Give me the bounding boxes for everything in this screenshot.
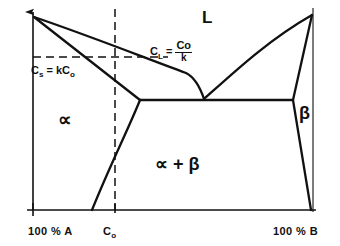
beta-region-label: β: [299, 104, 310, 122]
liquid-region-label: L: [202, 9, 212, 26]
alpha-beta-region-label: ∝ + β: [155, 155, 200, 173]
solvus-alpha-line: [92, 100, 140, 210]
cs-rest-subscript: o: [70, 70, 75, 79]
c0-subscript: o: [111, 231, 116, 240]
axis-label-100-percent-b: 100 % B: [273, 226, 318, 237]
cl-numerator: Co: [175, 40, 192, 53]
cl-equals: =: [166, 45, 172, 57]
cs-rest: = kC: [46, 64, 70, 76]
cs-subscript: s: [39, 70, 43, 79]
solidus-left-line: [34, 17, 140, 100]
phase-diagram-figure: L ∝ ∝ + β β CL = Co k Cs = kCo 100 % A C…: [0, 0, 340, 246]
solidus-right-line: [293, 15, 312, 100]
liquidus-composition-equation: CL = Co k: [150, 41, 192, 64]
axis-label-100-percent-a: 100 % A: [28, 226, 73, 237]
cs-symbol: C: [31, 64, 39, 76]
cl-symbol: C: [150, 45, 158, 57]
cl-denominator: k: [175, 53, 192, 64]
cl-subscript: L: [158, 52, 163, 61]
solidus-composition-equation: Cs = kCo: [31, 65, 75, 79]
alpha-region-label: ∝: [58, 110, 72, 129]
phase-diagram-canvas: [0, 0, 340, 246]
axis-label-c0: Co: [103, 226, 117, 240]
cl-fraction: Co k: [175, 40, 192, 63]
